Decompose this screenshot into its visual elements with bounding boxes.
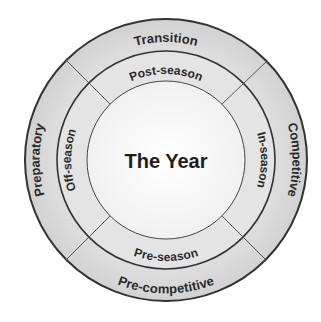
annual-periodization-diagram: Transition Pre-competitive Preparatory C…	[0, 0, 321, 322]
center-label: The Year	[124, 150, 207, 172]
